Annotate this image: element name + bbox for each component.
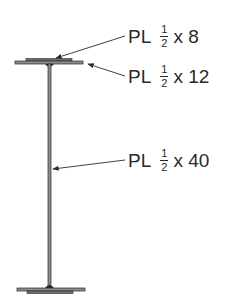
label-cover-plate: PL 1 2 x 8 <box>128 24 199 49</box>
fraction: 1 2 <box>160 64 168 89</box>
bottom-cover-plate <box>27 291 73 294</box>
bottom-flange-plate <box>17 288 85 291</box>
label-prefix: PL <box>128 151 151 170</box>
fraction-denominator: 2 <box>161 37 167 49</box>
fraction-denominator: 2 <box>161 161 167 173</box>
girder-diagram: PL 1 2 x 8 PL 1 2 x 12 PL 1 2 x 40 <box>0 0 234 307</box>
fraction: 1 2 <box>160 24 168 49</box>
fraction-numerator: 1 <box>160 64 168 76</box>
leader-web-plate <box>53 160 125 169</box>
label-prefix: PL <box>128 67 151 86</box>
label-flange-plate: PL 1 2 x 12 <box>128 64 209 89</box>
fraction-denominator: 2 <box>161 77 167 89</box>
web-plate <box>48 64 51 288</box>
label-dimension: 40 <box>188 151 209 170</box>
fraction-numerator: 1 <box>160 148 168 160</box>
top-flange-plate <box>15 61 83 64</box>
label-times: x <box>173 151 183 170</box>
label-web-plate: PL 1 2 x 40 <box>128 148 209 173</box>
fraction-numerator: 1 <box>160 24 168 36</box>
leader-flange-plate <box>88 64 125 76</box>
leader-cover-plate <box>56 36 125 58</box>
label-times: x <box>173 27 183 46</box>
label-dimension: 12 <box>188 67 209 86</box>
label-prefix: PL <box>128 27 151 46</box>
top-cover-plate <box>26 59 72 62</box>
fraction: 1 2 <box>160 148 168 173</box>
label-dimension: 8 <box>188 27 199 46</box>
label-times: x <box>173 67 183 86</box>
bottom-weld <box>45 285 54 288</box>
